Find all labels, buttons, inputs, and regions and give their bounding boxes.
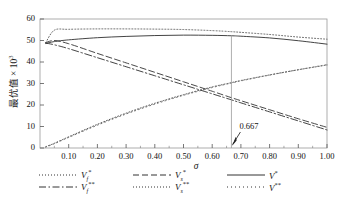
x-axis-tick-label: 0.40 [140, 151, 170, 161]
series-line-Vfstar [46, 29, 327, 43]
legend-item[interactable]: V** [226, 180, 302, 193]
y-axis-label-exponent: 3 [7, 56, 14, 59]
x-axis-tick-label: 0.60 [197, 151, 227, 161]
x-axis-tick-label: 0.50 [169, 151, 199, 161]
legend-item[interactable]: Vf** [38, 180, 114, 193]
annotation-arrow-head [232, 137, 237, 146]
x-axis-tick-label: 1.00 [312, 151, 340, 161]
x-axis-tick-label: 0.20 [82, 151, 112, 161]
legend-label: V* [269, 169, 278, 181]
legend-label: V** [269, 181, 281, 193]
legend-line-sample [226, 170, 266, 180]
legend-row: Vf**Vs**V** [0, 180, 340, 193]
series-line-Vstarstar [46, 65, 327, 148]
series-line-Vsstarstar [46, 65, 327, 147]
x-axis-tick-label: 0.10 [54, 151, 84, 161]
legend-label: Vs** [175, 180, 189, 194]
series-line-Vsstar [46, 40, 327, 127]
legend-line-sample [226, 182, 266, 192]
chart-figure: 01020304050600.100.200.300.400.500.600.7… [0, 0, 340, 217]
y-axis-label: 最优值 × 103 [6, 27, 20, 137]
legend-item[interactable]: Vs** [132, 180, 208, 193]
annotation-label-0667: 0.667 [239, 121, 258, 131]
chart-legend: Vf*Vs*V*Vf**Vs**V** [0, 168, 340, 217]
series-line-Vstar [46, 35, 327, 44]
y-axis-tick-label: 60 [9, 13, 35, 23]
x-axis-tick-label: 0.80 [255, 151, 285, 161]
legend-line-sample [38, 170, 78, 180]
series-line-Vfstarstar [46, 43, 327, 130]
legend-label: Vf** [81, 180, 95, 194]
legend-line-sample [132, 182, 172, 192]
y-axis-label-text: 最优值 × 10 [9, 59, 19, 109]
y-axis-tick-label: 0 [9, 142, 35, 152]
x-axis-tick-label: 0.90 [283, 151, 313, 161]
legend-line-sample [38, 182, 78, 192]
legend-line-sample [132, 170, 172, 180]
x-axis-tick-label: 0.30 [111, 151, 141, 161]
x-axis-tick-label: 0.70 [226, 151, 256, 161]
